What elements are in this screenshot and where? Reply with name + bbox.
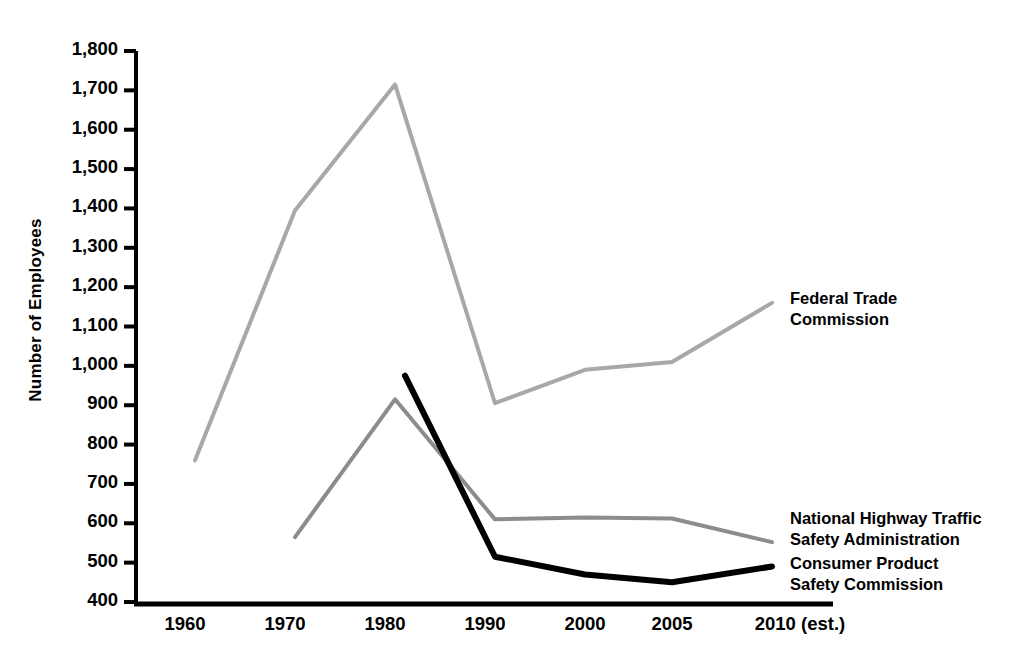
y-axis-tick-label: 800 bbox=[0, 432, 118, 454]
y-axis-tick-label: 900 bbox=[0, 392, 118, 414]
series-label-line: Safety Commission bbox=[790, 574, 943, 595]
y-axis-tick-label: 500 bbox=[0, 550, 118, 572]
series-label-line: Safety Administration bbox=[790, 529, 982, 550]
y-axis-tick-label: 1,100 bbox=[0, 314, 118, 336]
y-axis-tick-label: 1,400 bbox=[0, 195, 118, 217]
chart-container: Number of Employees 1,8001,7001,6001,500… bbox=[0, 0, 1022, 670]
series-label-1: National Highway TrafficSafety Administr… bbox=[790, 508, 982, 550]
x-axis-tick-label: 2010 (est.) bbox=[725, 613, 875, 635]
series-line-1 bbox=[295, 399, 772, 542]
y-axis-tick-label: 1,500 bbox=[0, 156, 118, 178]
y-axis-tick-label: 1,300 bbox=[0, 235, 118, 257]
series-label-line: Commission bbox=[790, 309, 897, 330]
series-label-line: Consumer Product bbox=[790, 553, 943, 574]
series-label-2: Consumer ProductSafety Commission bbox=[790, 553, 943, 595]
series-label-line: Federal Trade bbox=[790, 288, 897, 309]
series-line-0 bbox=[195, 84, 772, 460]
y-axis-tick-label: 1,200 bbox=[0, 274, 118, 296]
data-series-lines bbox=[195, 84, 772, 582]
y-axis-tick-label: 1,000 bbox=[0, 353, 118, 375]
y-axis-tick-label: 700 bbox=[0, 471, 118, 493]
y-axis-tick-label: 400 bbox=[0, 589, 118, 611]
series-label-line: National Highway Traffic bbox=[790, 508, 982, 529]
y-axis-tick-label: 600 bbox=[0, 510, 118, 532]
y-axis-tick-label: 1,600 bbox=[0, 117, 118, 139]
series-label-0: Federal TradeCommission bbox=[790, 288, 897, 330]
y-axis-tick-label: 1,700 bbox=[0, 77, 118, 99]
y-axis-tick-label: 1,800 bbox=[0, 38, 118, 60]
